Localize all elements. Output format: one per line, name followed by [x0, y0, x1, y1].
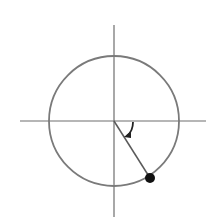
background [0, 0, 216, 223]
unit-circle-diagram [0, 0, 216, 223]
point-on-circle [145, 173, 155, 183]
